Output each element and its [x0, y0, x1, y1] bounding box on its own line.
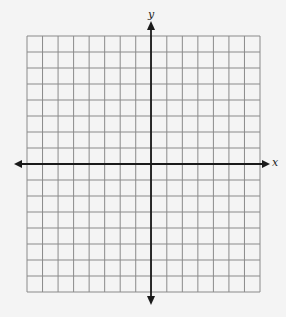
- y-axis-up-arrow-icon: [147, 21, 155, 30]
- x-axis-right-arrow-icon: [262, 160, 270, 168]
- axes: [14, 21, 270, 305]
- y-axis-down-arrow-icon: [147, 296, 155, 305]
- x-axis-label: x: [272, 156, 278, 169]
- x-axis-left-arrow-icon: [14, 160, 22, 168]
- y-axis-label: y: [148, 8, 154, 21]
- coordinate-plane: [0, 0, 286, 317]
